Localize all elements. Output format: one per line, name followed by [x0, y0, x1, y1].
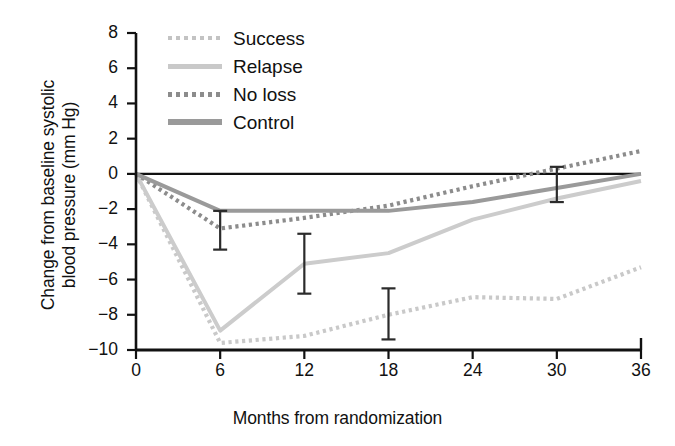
series-line-control — [136, 174, 641, 211]
plot-area — [0, 0, 675, 446]
error-bar-control-m6 — [213, 211, 227, 250]
series-line-no-loss — [136, 151, 641, 228]
chart-figure: Change from baseline systolic blood pres… — [0, 0, 675, 446]
